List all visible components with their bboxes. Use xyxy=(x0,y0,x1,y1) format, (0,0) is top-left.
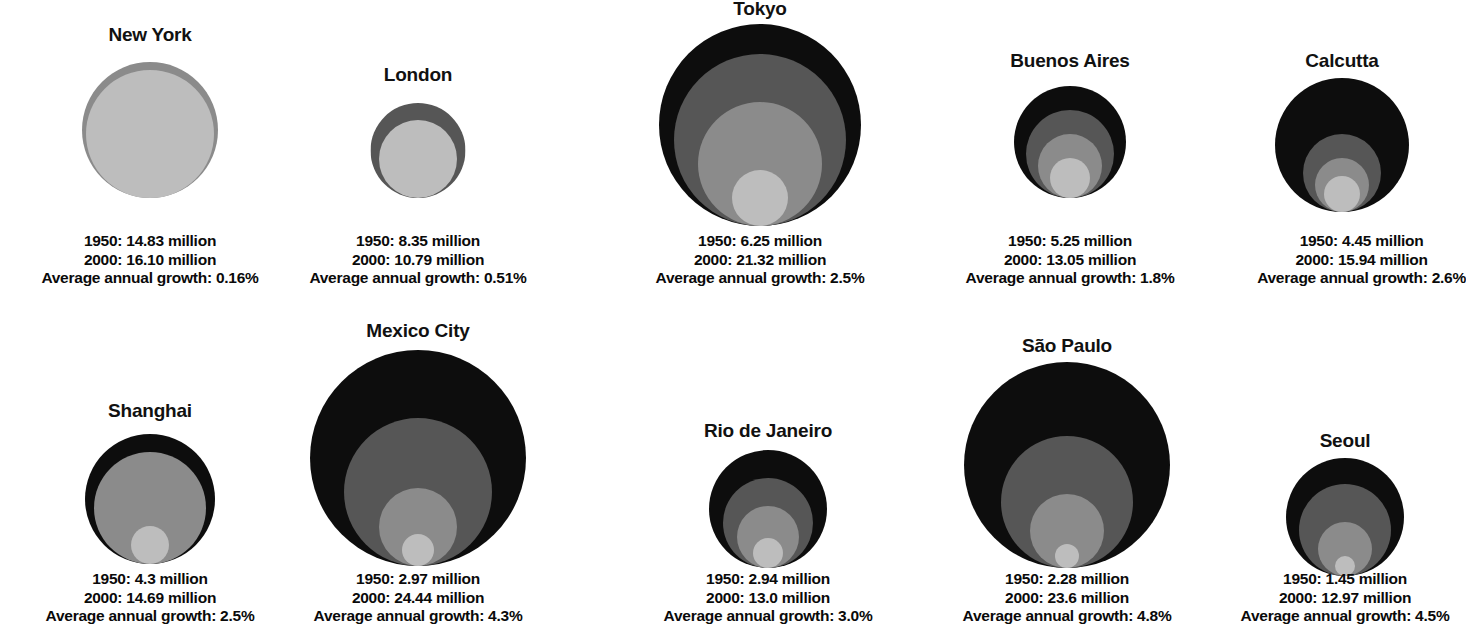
city-title: Mexico City xyxy=(366,320,469,342)
caption-line-2000: 2000: 23.6 million xyxy=(963,589,1172,608)
population-bubble-group xyxy=(964,362,1170,568)
city-caption: 1950: 4.3 million2000: 14.69 millionAver… xyxy=(46,570,255,626)
city-caption: 1950: 2.28 million2000: 23.6 millionAver… xyxy=(963,570,1172,626)
city-title: Rio de Janeiro xyxy=(704,420,832,442)
caption-line-2000: 2000: 14.69 million xyxy=(46,589,255,608)
caption-line-growth: Average annual growth: 3.0% xyxy=(664,607,873,626)
caption-line-1950: 1950: 2.28 million xyxy=(963,570,1172,589)
bubble-1950-inner xyxy=(753,538,783,568)
city-title: Seoul xyxy=(1320,430,1371,452)
caption-line-2000: 2000: 12.97 million xyxy=(1241,589,1450,608)
caption-line-2000: 2000: 24.44 million xyxy=(314,589,523,608)
caption-line-1950: 1950: 1.45 million xyxy=(1241,570,1450,589)
city-panel: Shanghai1950: 4.3 million2000: 14.69 mil… xyxy=(0,0,300,640)
city-title: Shanghai xyxy=(108,400,192,422)
city-panel: Rio de Janeiro1950: 2.94 million2000: 13… xyxy=(618,0,918,640)
city-panel: Seoul1950: 1.45 million2000: 12.97 milli… xyxy=(1232,0,1458,640)
population-bubble-group xyxy=(310,350,526,566)
caption-line-growth: Average annual growth: 2.5% xyxy=(46,607,255,626)
bubble-1950-inner xyxy=(131,526,169,564)
city-title: São Paulo xyxy=(1022,335,1112,357)
caption-line-growth: Average annual growth: 4.8% xyxy=(963,607,1172,626)
population-bubble-group xyxy=(1286,458,1404,576)
city-panel: São Paulo1950: 2.28 million2000: 23.6 mi… xyxy=(922,0,1212,640)
city-panel: Mexico City1950: 2.97 million2000: 24.44… xyxy=(268,0,568,640)
bubble-1950-inner xyxy=(1055,544,1079,568)
city-caption: 1950: 2.97 million2000: 24.44 millionAve… xyxy=(314,570,523,626)
city-caption: 1950: 2.94 million2000: 13.0 millionAver… xyxy=(664,570,873,626)
population-bubble-group xyxy=(709,450,827,568)
population-bubble-group xyxy=(85,434,215,564)
caption-line-2000: 2000: 13.0 million xyxy=(664,589,873,608)
caption-line-1950: 1950: 4.3 million xyxy=(46,570,255,589)
caption-line-growth: Average annual growth: 4.5% xyxy=(1241,607,1450,626)
caption-line-growth: Average annual growth: 4.3% xyxy=(314,607,523,626)
bubble-1950-inner xyxy=(402,534,434,566)
city-caption: 1950: 1.45 million2000: 12.97 millionAve… xyxy=(1241,570,1450,626)
caption-line-1950: 1950: 2.94 million xyxy=(664,570,873,589)
caption-line-1950: 1950: 2.97 million xyxy=(314,570,523,589)
